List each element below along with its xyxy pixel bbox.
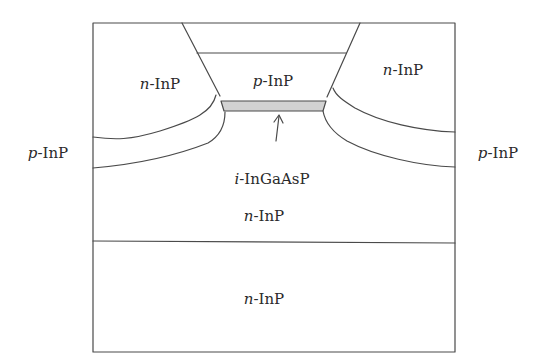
left-upper-boundary (93, 95, 216, 139)
label-n-inp-upper-left: n-InP (140, 77, 180, 92)
mesa-right-edge (327, 23, 360, 97)
right-lower-boundary (323, 111, 455, 167)
mesa-left-edge (182, 23, 220, 96)
left-lower-boundary (93, 112, 225, 168)
substrate-boundary (93, 241, 455, 243)
label-n-inp-lower-cladding: n-InP (244, 209, 284, 224)
label-n-inp-substrate: n-InP (244, 292, 284, 307)
active-layer (221, 101, 326, 111)
label-active-layer: i-InGaAsP (234, 172, 309, 187)
label-n-inp-upper-right: n-InP (383, 63, 423, 78)
right-upper-boundary (333, 88, 455, 132)
arrow-shaft (276, 116, 279, 141)
label-p-inp-right: p-InP (478, 146, 518, 161)
label-p-inp-left: p-InP (28, 146, 68, 161)
label-p-inp-mesa: p-InP (253, 74, 293, 89)
